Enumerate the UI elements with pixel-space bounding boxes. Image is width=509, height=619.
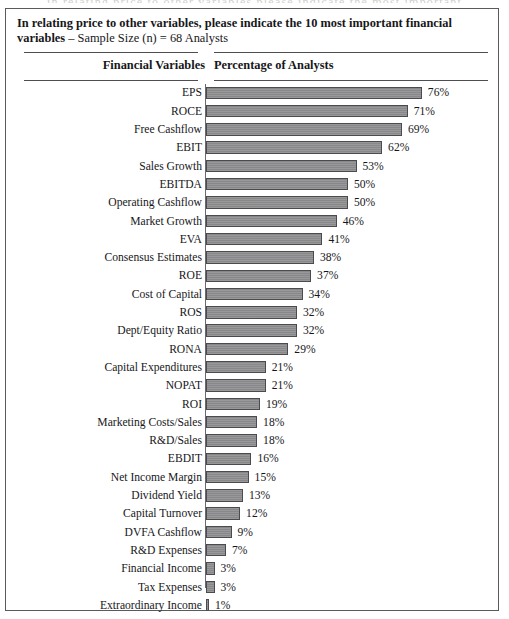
bar: [206, 526, 232, 538]
bar-row: Tax Expenses3%: [6, 579, 498, 597]
bar-row: Market Growth46%: [6, 213, 498, 231]
bar-category-label: Net Income Margin: [10, 471, 202, 484]
bar-row: Sales Growth53%: [6, 158, 498, 176]
bar: [206, 416, 257, 428]
bar-row: EPS76%: [6, 84, 498, 102]
bar-value-label: 3%: [221, 562, 236, 575]
bar: [206, 434, 257, 446]
header-rule-top-left: [24, 52, 198, 53]
bar-value-label: 18%: [263, 434, 284, 447]
bar: [206, 233, 322, 245]
bar-value-label: 37%: [317, 269, 338, 282]
bar: [206, 562, 215, 574]
bar-value-label: 46%: [343, 215, 364, 228]
bar-row: ROE37%: [6, 267, 498, 285]
bar: [206, 398, 260, 410]
bar-value-label: 7%: [232, 544, 247, 557]
bar-value-label: 9%: [238, 526, 253, 539]
bar: [206, 270, 311, 282]
bar: [206, 251, 314, 263]
bar: [206, 105, 408, 117]
bar-category-label: ROI: [10, 398, 202, 411]
bar-value-label: 69%: [408, 123, 429, 136]
bar: [206, 599, 209, 611]
bar-value-label: 41%: [328, 233, 349, 246]
bar: [206, 215, 337, 227]
bar-category-label: ROS: [10, 306, 202, 319]
bar-value-label: 21%: [272, 379, 293, 392]
bar-category-label: Financial Income: [10, 562, 202, 575]
bar-row: RONA29%: [6, 341, 498, 359]
header-rule-top-right: [214, 52, 488, 53]
bar-category-label: EPS: [10, 86, 202, 99]
column-header-band: Financial Variables Percentage of Analys…: [6, 52, 498, 82]
bar-row: Net Income Margin15%: [6, 469, 498, 487]
bar-row: Marketing Costs/Sales18%: [6, 414, 498, 432]
bar-value-label: 18%: [263, 416, 284, 429]
bar: [206, 123, 402, 135]
bar-category-label: Cost of Capital: [10, 288, 202, 301]
bar-category-label: Capital Expenditures: [10, 361, 202, 374]
bar: [206, 507, 240, 519]
bar-row: Financial Income3%: [6, 560, 498, 578]
bar: [206, 87, 422, 99]
bar: [206, 306, 297, 318]
bar-category-label: RONA: [10, 343, 202, 356]
bar-row: Cost of Capital34%: [6, 286, 498, 304]
bar-row: R&D Expenses7%: [6, 542, 498, 560]
figure-frame: In relating price to other variables, pl…: [5, 8, 499, 611]
bar-value-label: 15%: [255, 471, 276, 484]
bar-row: Dividend Yield13%: [6, 487, 498, 505]
bar-value-label: 3%: [221, 581, 236, 594]
bar-category-label: Extraordinary Income: [10, 599, 202, 612]
bar-value-label: 16%: [257, 452, 278, 465]
bar-value-label: 1%: [215, 599, 230, 612]
bar-category-label: Dividend Yield: [10, 489, 202, 502]
bar-row: Consensus Estimates38%: [6, 249, 498, 267]
bar-value-label: 32%: [303, 306, 324, 319]
figure-caption: In relating price to other variables, pl…: [6, 9, 498, 50]
bar-value-label: 32%: [303, 324, 324, 337]
bar-category-label: Consensus Estimates: [10, 251, 202, 264]
bar-row: Dept/Equity Ratio32%: [6, 322, 498, 340]
bar-row: R&D/Sales18%: [6, 432, 498, 450]
bar: [206, 196, 348, 208]
bar-category-label: R&D Expenses: [10, 544, 202, 557]
bar-row: ROCE71%: [6, 103, 498, 121]
bar-value-label: 50%: [354, 196, 375, 209]
bar: [206, 141, 382, 153]
bar-chart-plot-area: EPS76%ROCE71%Free Cashflow69%EBIT62%Sale…: [6, 84, 498, 600]
bar-value-label: 38%: [320, 251, 341, 264]
bar: [206, 288, 303, 300]
bar: [206, 581, 215, 593]
bar: [206, 453, 251, 465]
bar-value-label: 76%: [428, 86, 449, 99]
bar: [206, 489, 243, 501]
bar-category-label: EBIT: [10, 141, 202, 154]
header-rule-bottom-left: [24, 80, 198, 81]
bar-value-label: 71%: [414, 105, 435, 118]
bar-row: EBITDA50%: [6, 176, 498, 194]
bar-value-label: 12%: [246, 507, 267, 520]
bar-category-label: ROCE: [10, 105, 202, 118]
bar-row: Capital Turnover12%: [6, 505, 498, 523]
bar-category-label: EBITDA: [10, 178, 202, 191]
bar-row: Operating Cashflow50%: [6, 194, 498, 212]
bar-value-label: 19%: [266, 398, 287, 411]
bar-category-label: ROE: [10, 269, 202, 282]
bar-category-label: Marketing Costs/Sales: [10, 416, 202, 429]
bar-category-label: R&D/Sales: [10, 434, 202, 447]
bar-category-label: EVA: [10, 233, 202, 246]
bar-value-label: 53%: [363, 160, 384, 173]
bar-row: Capital Expenditures21%: [6, 359, 498, 377]
bar: [206, 178, 348, 190]
bar-value-label: 13%: [249, 489, 270, 502]
bar-category-label: Tax Expenses: [10, 581, 202, 594]
bar-row: ROS32%: [6, 304, 498, 322]
bar-value-label: 50%: [354, 178, 375, 191]
caption-normal-text: – Sample Size (n) = 68 Analysts: [65, 31, 228, 45]
header-rule-bottom-right: [214, 80, 488, 81]
bar-category-label: Dept/Equity Ratio: [10, 324, 202, 337]
bar-value-label: 21%: [272, 361, 293, 374]
bar-category-label: NOPAT: [10, 379, 202, 392]
